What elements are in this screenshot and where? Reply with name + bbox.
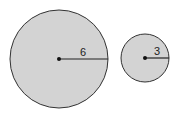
small-circle: 3	[121, 34, 169, 82]
large-radius-label: 6	[80, 46, 86, 58]
large-circle: 6	[10, 10, 108, 108]
large-center-point	[57, 57, 61, 61]
small-radius-label: 3	[154, 45, 160, 57]
circles-diagram: 6 3	[0, 0, 176, 117]
small-center-point	[143, 56, 147, 60]
